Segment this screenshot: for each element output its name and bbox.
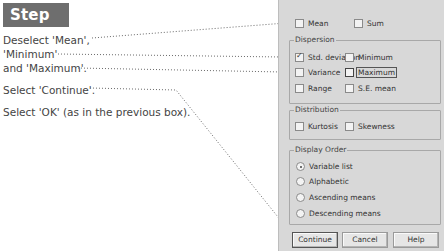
minimum-label: Minimum [358,53,393,62]
alphabetic-label: Alphabetic [309,177,349,186]
range-checkbox[interactable] [295,84,304,93]
variable-list-radio[interactable] [296,162,305,171]
sum-label: Sum [367,19,384,28]
help-button[interactable]: Help [393,232,439,248]
ascending-means-radio[interactable] [296,193,305,202]
se-mean-label: S.E. mean [358,84,396,93]
descending-means-label: Descending means [309,209,381,218]
descending-means-radio[interactable] [296,209,305,218]
continue-button[interactable]: Continue [292,232,338,248]
statistics-options-dialog: Mean Sum Dispersion Std. deviation Minim… [278,0,444,251]
mean-label: Mean [308,19,328,28]
variance-label: Variance [308,68,340,77]
distribution-title: Distribution [294,105,340,115]
std-deviation-checkbox[interactable] [295,53,304,62]
maximum-label: Maximum [357,68,396,77]
se-mean-checkbox[interactable] [345,84,354,93]
skewness-label: Skewness [358,122,395,131]
skewness-checkbox[interactable] [345,122,354,131]
display-order-title: Display Order [294,145,347,155]
mean-checkbox[interactable] [295,19,304,28]
variance-checkbox[interactable] [295,68,304,77]
minimum-checkbox[interactable] [345,53,354,62]
ascending-means-label: Ascending means [309,193,375,202]
kurtosis-label: Kurtosis [308,122,338,131]
alphabetic-radio[interactable] [296,177,305,186]
dispersion-title: Dispersion [294,35,336,45]
sum-checkbox[interactable] [354,19,363,28]
maximum-checkbox[interactable] [345,68,354,77]
kurtosis-checkbox[interactable] [295,122,304,131]
variable-list-label: Variable list [309,162,353,171]
range-label: Range [308,84,332,93]
cancel-button[interactable]: Cancel [342,232,388,248]
